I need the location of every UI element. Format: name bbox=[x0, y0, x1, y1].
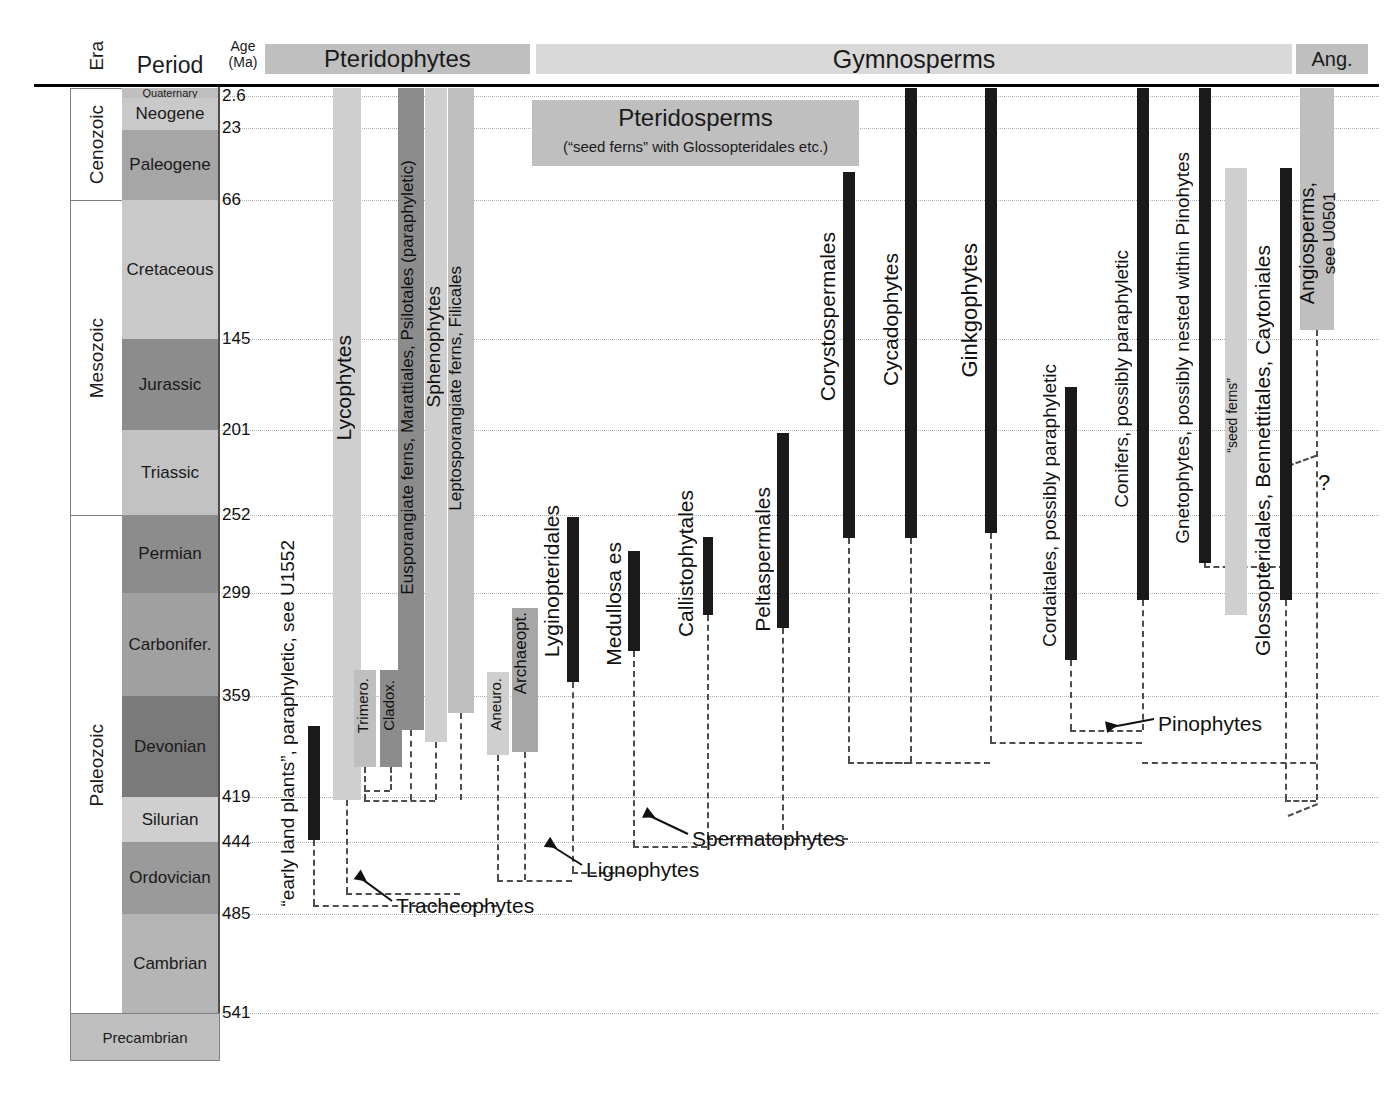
age-tick-419: 419 bbox=[222, 787, 250, 807]
age-tick-485: 485 bbox=[222, 904, 250, 924]
header-age-line2: (Ma) bbox=[220, 54, 266, 70]
age-tick-201: 201 bbox=[222, 420, 250, 440]
clado-join-lignophytes bbox=[497, 880, 572, 882]
top-band-gymnosperms-label: Gymnosperms bbox=[833, 45, 996, 74]
age-tick-66: 66 bbox=[222, 190, 241, 210]
range-label-text-corystospermales: Corystospermales bbox=[816, 232, 840, 401]
range-label-conifers: Conifers, possibly paraphyletic bbox=[1111, 250, 1133, 535]
era-label-cenozoic: Cenozoic bbox=[86, 105, 108, 184]
age-tick-145: 145 bbox=[222, 329, 250, 349]
annotation-uncertainty: ? bbox=[1318, 470, 1330, 496]
range-label-cladoxylopsida: Cladox. bbox=[380, 680, 397, 760]
gridline-541 bbox=[222, 1013, 1379, 1014]
range-bar-glossopteridales bbox=[1280, 168, 1292, 600]
era-label-paleozoic: Paleozoic bbox=[86, 724, 108, 806]
header-age: Age (Ma) bbox=[220, 38, 266, 80]
header-era-label: Era bbox=[86, 41, 108, 71]
era-label-mesozoic: Mesozoic bbox=[86, 318, 108, 398]
age-tick-252: 252 bbox=[222, 505, 250, 525]
range-bar-callistophytales bbox=[703, 537, 713, 615]
header-age-line1: Age bbox=[220, 38, 266, 54]
period-precambrian-label: Precambrian bbox=[102, 1029, 187, 1046]
range-bar-corystospermales bbox=[843, 172, 855, 538]
range-label-text-lycophytes: Lycophytes bbox=[332, 335, 356, 440]
range-label-text-aneurophytales: Aneuro. bbox=[487, 678, 504, 731]
top-band-pteridophytes: Pteridophytes bbox=[265, 44, 530, 74]
clado-stem-17 bbox=[1142, 600, 1144, 730]
range-label-text-cordaitales: Cordaitales, possibly paraphyletic bbox=[1039, 364, 1061, 647]
range-label-text-angiosperms-ref: see U0501 bbox=[1320, 192, 1340, 274]
era-cell-cenozoic: Cenozoic bbox=[70, 88, 124, 202]
age-tick-299: 299 bbox=[222, 583, 250, 603]
gridline-299 bbox=[222, 593, 1379, 594]
range-label-text-lyginopteridales: Lyginopteridales bbox=[540, 505, 564, 657]
range-label-angiosperms: Angiosperms, bbox=[1296, 182, 1319, 330]
arrow-spermatophytes-head bbox=[642, 807, 658, 823]
top-band-pteridophytes-label: Pteridophytes bbox=[324, 45, 471, 73]
phylogeny-timescale-figure: Era Period Age (Ma) Pteridophytes Gymnos… bbox=[0, 0, 1393, 1100]
period-label-carbonifer: Carbonifer. bbox=[128, 635, 211, 655]
range-label-text-eusporangiate-ferns: Eusporangiate ferns, Marattiales, Psilot… bbox=[398, 160, 418, 595]
age-tick-2.6: 2.6 bbox=[222, 86, 246, 106]
range-label-ginkgophytes: Ginkgophytes bbox=[957, 243, 983, 408]
clado-join-trimero-cladox bbox=[364, 790, 390, 792]
clado-stem-10 bbox=[633, 651, 635, 846]
age-tick-23: 23 bbox=[222, 118, 241, 138]
clado-stem-19 bbox=[1285, 600, 1287, 800]
range-label-sphenophytes: Sphenophytes bbox=[423, 286, 445, 526]
range-label-corystospermales: Corystospermales bbox=[816, 232, 840, 437]
top-band-gymnosperms: Gymnosperms bbox=[536, 44, 1292, 74]
period-label-ordovician: Ordovician bbox=[129, 868, 210, 888]
range-label-archaeopteridales: Archaeopt. bbox=[511, 612, 531, 734]
range-label-text-medullosales: Medullosa es bbox=[602, 542, 626, 666]
period-cell-permian: Permian bbox=[122, 515, 218, 593]
clado-stem-8 bbox=[524, 752, 526, 880]
range-label-aneurophytales: Aneuro. bbox=[487, 678, 504, 756]
range-label-text-gnetophytes: Gnetophytes, possibly nested within Pino… bbox=[1172, 152, 1194, 544]
range-label-seed-ferns-band: “seed ferns” bbox=[1224, 378, 1240, 498]
clado-join-lycophyte-group bbox=[364, 800, 435, 802]
pteridosperms-box: Pteridosperms (“seed ferns” with Glossop… bbox=[532, 100, 859, 166]
clado-stem-15 bbox=[990, 533, 992, 742]
clado-stem-16 bbox=[1070, 660, 1072, 730]
era-cell-mesozoic: Mesozoic bbox=[70, 200, 124, 517]
range-label-angiosperms-ref: see U0501 bbox=[1320, 192, 1340, 312]
range-bar-medullosales bbox=[628, 551, 640, 651]
clado-stem-5 bbox=[435, 742, 437, 800]
range-label-eusporangiate-ferns: Eusporangiate ferns, Marattiales, Psilot… bbox=[398, 160, 418, 735]
range-label-peltaspermales: Peltaspermales bbox=[751, 487, 775, 662]
period-precambrian: Precambrian bbox=[70, 1013, 220, 1061]
clado-stem-12 bbox=[782, 628, 784, 830]
clado-join-angio-right bbox=[1142, 762, 1316, 764]
range-label-text-conifers: Conifers, possibly paraphyletic bbox=[1111, 250, 1133, 508]
clado-stem-13 bbox=[848, 538, 850, 762]
clado-angiosperm-query-lower bbox=[1288, 803, 1318, 817]
range-label-text-filicales: Leptosporangiate ferns, Filicales bbox=[446, 266, 466, 511]
clado-stem-7 bbox=[497, 755, 499, 880]
period-cell-silurian: Silurian bbox=[122, 797, 218, 842]
period-label-permian: Permian bbox=[138, 544, 201, 564]
range-label-text-peltaspermales: Peltaspermales bbox=[751, 487, 775, 632]
period-cell-quaternary: Quaternary bbox=[122, 88, 218, 98]
range-bar-lyginopteridales bbox=[567, 517, 579, 682]
header-era: Era bbox=[74, 30, 120, 82]
range-label-cycadophytes: Cycadophytes bbox=[879, 253, 903, 423]
clado-join-angio-lower bbox=[1285, 800, 1316, 802]
period-cell-devonian: Devonian bbox=[122, 696, 218, 797]
range-label-text-seed-ferns-band: “seed ferns” bbox=[1224, 378, 1240, 453]
range-bar-conifers bbox=[1137, 88, 1149, 600]
period-cell-triassic: Triassic bbox=[122, 430, 218, 515]
age-tick-444: 444 bbox=[222, 832, 250, 852]
range-label-text-archaeopteridales: Archaeopt. bbox=[511, 612, 531, 694]
period-label-cretaceous: Cretaceous bbox=[127, 260, 214, 280]
range-label-text-trimerophytes: Trimero. bbox=[354, 678, 371, 733]
clado-join-seedplants-upper bbox=[848, 762, 990, 764]
period-cell-carbonifer: Carbonifer. bbox=[122, 593, 218, 696]
clado-join-ginkgo-pino bbox=[990, 742, 1142, 744]
age-tick-359: 359 bbox=[222, 686, 250, 706]
clado-stem-20 bbox=[1316, 330, 1318, 800]
range-label-text-ginkgophytes: Ginkgophytes bbox=[957, 243, 983, 378]
clado-stem-6 bbox=[460, 713, 462, 800]
range-bar-gnetophytes bbox=[1199, 88, 1211, 563]
period-cell-cambrian: Cambrian bbox=[122, 914, 218, 1013]
